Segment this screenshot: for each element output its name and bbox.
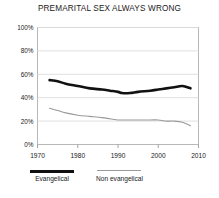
y-axis-labels: 100%80%60%40%20%0% xyxy=(17,24,34,148)
y-axis-tick-label: 80% xyxy=(21,47,34,54)
chart-svg: 100%80%60%40%20%0% 19701980199020002010 xyxy=(0,0,219,198)
x-axis-tick-label: 1980 xyxy=(70,152,85,159)
x-axis-tick-label: 1990 xyxy=(111,152,126,159)
x-axis-tick-label: 2000 xyxy=(151,152,166,159)
y-axis-tick-label: 60% xyxy=(21,71,34,78)
legend-label: Non evangelical xyxy=(96,176,143,183)
x-axis-tick-label: 2010 xyxy=(191,152,206,159)
x-axis-tick-label: 1970 xyxy=(30,152,45,159)
x-axis-ticks xyxy=(38,145,199,149)
chart-legend: Evangelical Non evangelical xyxy=(30,170,143,182)
y-axis-tick-label: 0% xyxy=(24,141,34,148)
x-axis-labels: 19701980199020002010 xyxy=(30,152,206,159)
legend-swatch-icon xyxy=(30,170,74,173)
legend-label: Evangelical xyxy=(35,176,69,183)
y-axis-tick-label: 20% xyxy=(21,118,34,125)
y-axis-tick-label: 40% xyxy=(21,94,34,101)
legend-swatch-icon xyxy=(97,170,141,171)
y-axis-tick-label: 100% xyxy=(17,24,34,31)
chart-container: PREMARITAL SEX ALWAYS WRONG 100%80%60%40… xyxy=(0,0,219,198)
legend-item-evangelical: Evangelical xyxy=(30,170,74,182)
legend-item-non-evangelical: Non evangelical xyxy=(96,170,143,182)
plot-area: 100%80%60%40%20%0% 19701980199020002010 xyxy=(0,0,219,198)
